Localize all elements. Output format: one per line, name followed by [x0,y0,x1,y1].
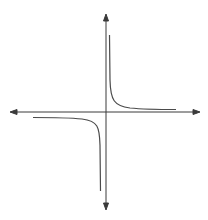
curve-branch-quadrant-1 [110,35,177,110]
x-axis-left-arrow-icon [10,110,17,115]
reciprocal-function-graph [0,0,208,220]
x-axis-right-arrow-icon [193,110,200,115]
x-axis [10,110,200,115]
y-axis-bottom-arrow-icon [104,203,109,210]
y-axis-top-arrow-icon [104,14,109,21]
curve-branch-quadrant-3 [33,118,101,192]
